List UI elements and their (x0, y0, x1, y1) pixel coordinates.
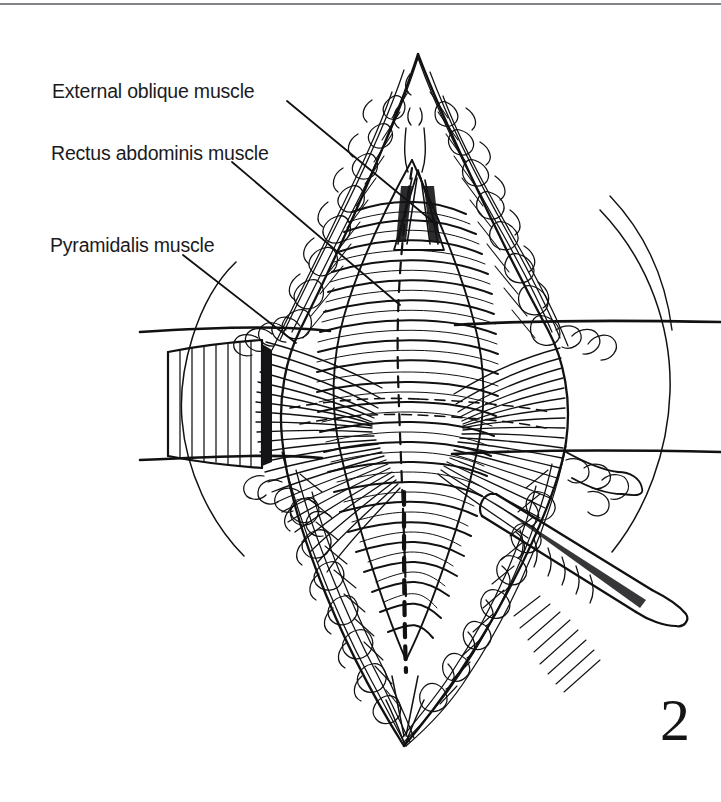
subcutaneous-fat-right-upper (418, 58, 568, 346)
fat-hatch-right-lower (440, 470, 548, 704)
apex-dark-fill (396, 186, 440, 242)
label-external-oblique-muscle: External oblique muscle (52, 80, 254, 102)
midline-incision-dark (404, 492, 406, 672)
figure-number: 2 (660, 690, 690, 750)
surgical-illustration (0, 0, 721, 802)
label-pyramidalis-muscle: Pyramidalis muscle (50, 234, 214, 256)
retractor-blade-right (566, 452, 642, 495)
figure-page: External oblique muscle Rectus abdominis… (0, 0, 721, 802)
retractor-blade-left (168, 340, 272, 468)
label-rectus-abdominis-muscle: Rectus abdominis muscle (51, 142, 269, 164)
subcutaneous-fat-right-lower (402, 446, 566, 746)
fat-pad-right-upper (556, 326, 616, 360)
instrument-shadow-hatch (514, 596, 600, 692)
subcutaneous-fat-left-lower (282, 452, 414, 746)
rectus-fine-striations (317, 212, 498, 608)
